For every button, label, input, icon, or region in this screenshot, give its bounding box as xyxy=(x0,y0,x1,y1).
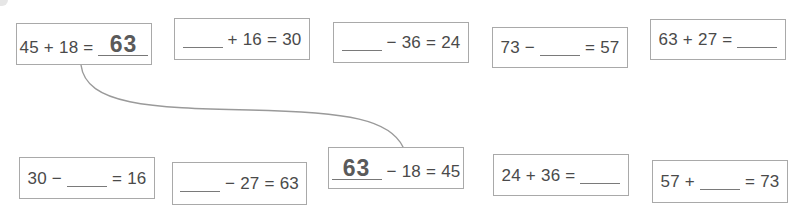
equation: 63−18=45 xyxy=(332,157,461,180)
number: 24 xyxy=(502,167,521,184)
answer-blank[interactable] xyxy=(67,170,107,187)
number: 18 xyxy=(402,163,421,180)
number: 57 xyxy=(661,173,680,190)
page-corner-mark xyxy=(0,0,8,6)
equation-card: +16=30 xyxy=(174,18,310,60)
answer-field-filled[interactable]: 63 xyxy=(98,33,148,56)
operator: = xyxy=(267,31,277,48)
answer-blank[interactable] xyxy=(700,173,740,190)
operator: + xyxy=(526,167,536,184)
operator: + xyxy=(228,31,238,48)
operator: + xyxy=(44,39,54,56)
number: 18 xyxy=(59,39,78,56)
number: 36 xyxy=(402,34,421,51)
number: 27 xyxy=(240,175,259,192)
number: 24 xyxy=(441,34,460,51)
operator: − xyxy=(225,175,235,192)
operator: = xyxy=(565,167,575,184)
equation-card: 30−=16 xyxy=(19,157,155,199)
number: 63 xyxy=(280,175,299,192)
number: 57 xyxy=(600,39,619,56)
answer-blank[interactable] xyxy=(183,31,223,48)
operator: = xyxy=(585,39,595,56)
operator: = xyxy=(426,163,436,180)
number: 16 xyxy=(127,170,146,187)
equation: −27=63 xyxy=(180,175,299,192)
operator: − xyxy=(52,170,62,187)
answer-blank[interactable] xyxy=(342,34,382,51)
equation-card: 24+36= xyxy=(493,154,629,196)
equation-card: 63+27= xyxy=(650,19,786,60)
number: 45 xyxy=(441,163,460,180)
operator: = xyxy=(426,34,436,51)
answer-blank[interactable] xyxy=(540,39,580,56)
equation: 63+27= xyxy=(659,31,778,48)
equation: 30−=16 xyxy=(28,170,147,187)
equation-card: 45+18=63 xyxy=(16,23,152,65)
equation: 73−=57 xyxy=(501,39,620,56)
operator: = xyxy=(265,175,275,192)
answer-blank[interactable] xyxy=(737,31,777,48)
equation-card: 73−=57 xyxy=(492,27,628,68)
answer-field-filled[interactable]: 63 xyxy=(332,157,382,180)
operator: − xyxy=(387,34,397,51)
operator: + xyxy=(685,173,695,190)
number: 73 xyxy=(501,39,520,56)
number: 30 xyxy=(28,170,47,187)
operator: = xyxy=(745,173,755,190)
number: 63 xyxy=(659,31,678,48)
number: 30 xyxy=(282,31,301,48)
operator: = xyxy=(83,39,93,56)
operator: = xyxy=(722,31,732,48)
equation: 57+=73 xyxy=(661,173,780,190)
equation-card: −27=63 xyxy=(172,162,307,205)
equation: −36=24 xyxy=(342,34,461,51)
number: 27 xyxy=(698,31,717,48)
answer-blank[interactable] xyxy=(580,167,620,184)
answer-blank[interactable] xyxy=(180,175,220,192)
equation-card: −36=24 xyxy=(333,22,469,63)
operator: = xyxy=(112,170,122,187)
equation-card: 57+=73 xyxy=(652,160,788,203)
equation: 24+36= xyxy=(502,167,621,184)
operator: + xyxy=(683,31,693,48)
equation: 45+18=63 xyxy=(20,33,149,56)
number: 45 xyxy=(20,39,39,56)
matching-worksheet: 45+18=63+16=30−36=2473−=5763+27= 30−=16−… xyxy=(0,0,796,214)
operator: − xyxy=(525,39,535,56)
number: 73 xyxy=(760,173,779,190)
equation-card: 63−18=45 xyxy=(328,147,464,189)
equation: +16=30 xyxy=(183,31,302,48)
number: 36 xyxy=(541,167,560,184)
operator: − xyxy=(387,163,397,180)
number: 16 xyxy=(243,31,262,48)
